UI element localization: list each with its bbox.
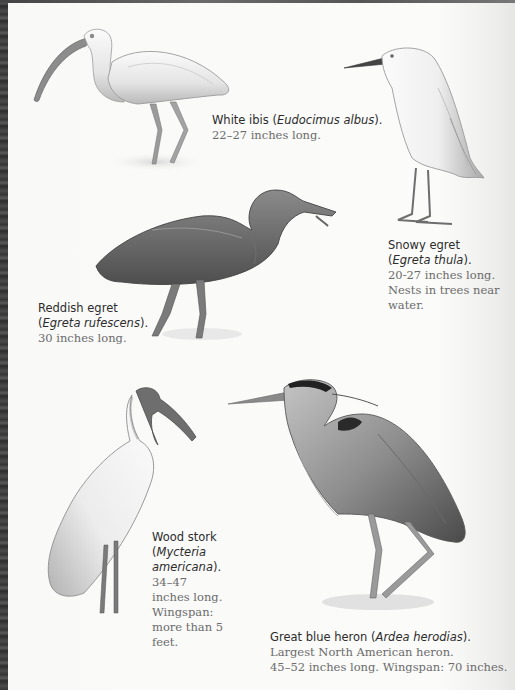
- latin-name: Egreta rufescens: [43, 316, 140, 330]
- latin-name: Egreta thula: [393, 253, 464, 267]
- common-name: Reddish egret: [38, 301, 148, 316]
- great-blue-heron-illustration: [228, 374, 496, 614]
- caption-detail: Wingspan:: [152, 605, 223, 620]
- caption-detail: water.: [388, 298, 500, 313]
- latin-name-line-2: americana: [152, 560, 213, 574]
- common-name: Snowy egret: [388, 238, 500, 253]
- caption-detail: Largest North American heron.: [270, 645, 507, 660]
- book-binding-edge: [0, 0, 8, 690]
- caption-detail: more than 5: [152, 620, 223, 635]
- caption-detail: 45–52 inches long. Wingspan: 70 inches.: [270, 660, 507, 675]
- snowy-egret-illustration: [342, 18, 502, 233]
- caption-detail: 34–47: [152, 575, 223, 590]
- reddish-egret-caption: Reddish egret (Egreta rufescens). 30 inc…: [38, 301, 148, 346]
- caption-detail: 20-27 inches long.: [388, 268, 500, 283]
- caption-detail: 30 inches long.: [38, 331, 148, 346]
- common-name: White ibis: [212, 113, 269, 127]
- latin-name: Ardea herodias: [376, 630, 463, 644]
- common-name: Wood stork: [152, 530, 223, 545]
- wood-stork-caption: Wood stork (Mycteria americana). 34–47 i…: [152, 530, 223, 650]
- great-blue-heron-caption: Great blue heron (Ardea herodias). Large…: [270, 630, 507, 675]
- caption-detail: Nests in trees near: [388, 283, 500, 298]
- white-ibis-illustration: [28, 22, 238, 172]
- caption-detail: inches long.: [152, 590, 223, 605]
- common-name: Great blue heron: [270, 630, 367, 644]
- caption-detail: feet.: [152, 635, 223, 650]
- latin-name-line-1: Mycteria: [157, 545, 207, 559]
- snowy-egret-caption: Snowy egret (Egreta thula). 20-27 inches…: [388, 238, 500, 313]
